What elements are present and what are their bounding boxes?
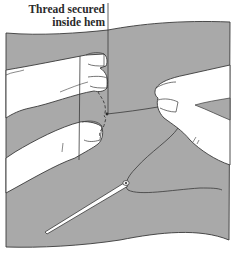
callout-label-line1: Thread secured: [28, 3, 105, 16]
callout-label-line2: inside hem: [28, 16, 105, 29]
sewing-drawing: [0, 0, 235, 257]
sewing-illustration: Thread secured inside hem: [0, 0, 235, 257]
callout-label: Thread secured inside hem: [28, 3, 105, 29]
